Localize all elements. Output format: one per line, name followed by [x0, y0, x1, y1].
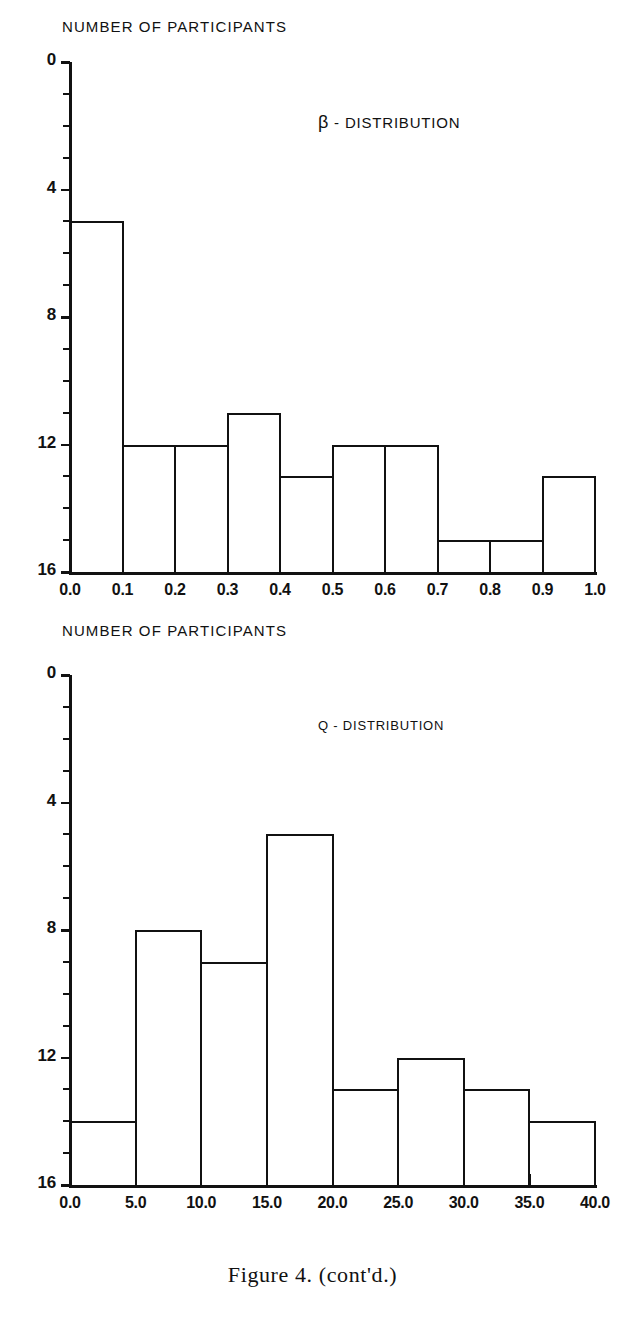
y-axis-label: 12: [12, 433, 56, 453]
x-axis-label: 35.0: [501, 1194, 557, 1212]
y-axis-minor-tick: [63, 706, 69, 708]
y-axis-minor-tick: [63, 833, 69, 835]
y-axis-label: 16: [12, 560, 56, 580]
y-axis-minor-tick: [63, 961, 69, 963]
y-axis-major-tick: [61, 61, 70, 64]
chart-beta-distribution: NUMBER OF PARTICIPANTS β - DISTRIBUTION …: [0, 0, 625, 615]
x-axis-label: 10.0: [173, 1194, 229, 1212]
histogram-bar: [332, 445, 387, 574]
x-axis-label: 1.0: [567, 581, 623, 599]
x-axis-label: 30.0: [436, 1194, 492, 1212]
y-axis-label: 0: [12, 50, 56, 70]
y-axis-minor-tick: [63, 125, 69, 127]
histogram-bar: [69, 221, 124, 573]
y-axis-label: 12: [12, 1046, 56, 1066]
x-axis-label: 5.0: [108, 1194, 164, 1212]
y-axis-minor-tick: [63, 1025, 69, 1027]
y-axis-minor-tick: [63, 993, 69, 995]
histogram-bar: [200, 962, 268, 1186]
y-axis-minor-tick: [63, 897, 69, 899]
y-axis-minor-tick: [63, 865, 69, 867]
histogram-bar: [279, 476, 334, 573]
histogram-bar: [227, 413, 282, 573]
x-axis-label: 40.0: [567, 1194, 623, 1212]
x-axis-label: 0.1: [95, 581, 151, 599]
y-axis-label: 8: [12, 305, 56, 325]
x-axis-label: 0.9: [515, 581, 571, 599]
y-axis-major-tick: [61, 674, 70, 677]
y-axis-minor-tick: [63, 770, 69, 772]
histogram-bar: [332, 1089, 400, 1186]
y-axis-minor-tick: [63, 1088, 69, 1090]
histogram-bar: [266, 834, 334, 1186]
histogram-bar: [174, 445, 229, 574]
histogram-bar: [69, 1121, 137, 1186]
x-axis-label: 0.3: [200, 581, 256, 599]
x-axis-label: 25.0: [370, 1194, 426, 1212]
y-axis-major-tick: [61, 1057, 70, 1060]
histogram-bar: [135, 930, 203, 1186]
x-axis-label: 0.5: [305, 581, 361, 599]
y-axis-major-tick: [61, 929, 70, 932]
x-axis-label: 15.0: [239, 1194, 295, 1212]
x-axis-label: 20.0: [305, 1194, 361, 1212]
y-axis-label: 4: [12, 791, 56, 811]
y-axis-minor-tick: [63, 738, 69, 740]
histogram-bar: [437, 540, 492, 573]
y-axis-label: 16: [12, 1173, 56, 1193]
histogram-bar: [384, 445, 439, 574]
x-axis-label: 0.4: [252, 581, 308, 599]
x-axis-label: 0.2: [147, 581, 203, 599]
chart-q-distribution: NUMBER OF PARTICIPANTS Q - DISTRIBUTION …: [0, 620, 625, 1240]
histogram-bar: [528, 1121, 596, 1186]
x-axis-label: 0.0: [42, 581, 98, 599]
figure-caption: Figure 4. (cont'd.): [0, 1262, 625, 1288]
plot-area-q: 16128400.05.010.015.020.025.030.035.040.…: [0, 620, 625, 1240]
y-axis-major-tick: [61, 802, 70, 805]
histogram-bar: [122, 445, 177, 574]
y-axis-label: 8: [12, 918, 56, 938]
histogram-bar: [463, 1089, 531, 1186]
y-axis-minor-tick: [63, 157, 69, 159]
x-axis-label: 0.6: [357, 581, 413, 599]
y-axis-label: 4: [12, 178, 56, 198]
histogram-bar: [542, 476, 597, 573]
x-axis-label: 0.7: [410, 581, 466, 599]
y-axis-minor-tick: [63, 93, 69, 95]
x-axis-label: 0.0: [42, 1194, 98, 1212]
x-axis-label: 0.8: [462, 581, 518, 599]
plot-area-beta: 16128400.00.10.20.30.40.50.60.70.80.91.0: [0, 0, 625, 615]
histogram-bar: [397, 1058, 465, 1187]
figure-page: NUMBER OF PARTICIPANTS β - DISTRIBUTION …: [0, 0, 625, 1326]
histogram-bar: [489, 540, 544, 573]
y-axis-major-tick: [61, 189, 70, 192]
y-axis-label: 0: [12, 663, 56, 683]
